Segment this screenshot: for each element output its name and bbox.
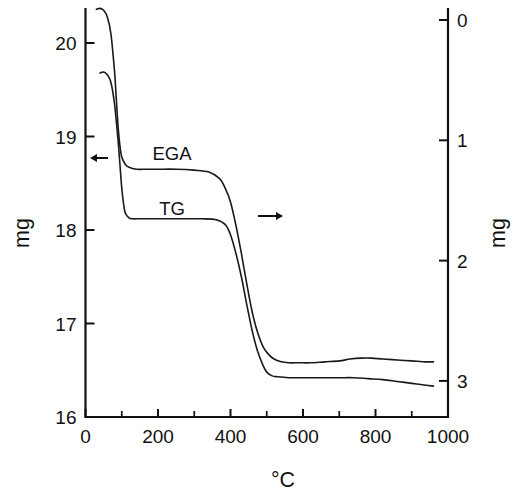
y-left-tick-label: 19	[55, 127, 76, 148]
y-left-tick-label: 20	[55, 33, 76, 54]
y-right-tick-label: 2	[457, 251, 468, 272]
tga-ega-chart: 0200400600800100016171819200123EGATGmgmg…	[0, 0, 530, 502]
y-left-axis-title: mg	[10, 218, 34, 248]
axis-frame	[86, 8, 449, 417]
curve-ega	[96, 8, 433, 362]
x-tick-label: 800	[360, 426, 392, 447]
y-left-tick-label: 18	[55, 220, 76, 241]
y-right-tick-label: 3	[457, 371, 468, 392]
y-right-tick-label: 1	[457, 130, 468, 151]
y-right-tick-label: 0	[457, 10, 468, 31]
x-tick-label: 200	[142, 426, 174, 447]
curve-label-tg: TG	[159, 198, 185, 219]
x-tick-label: 600	[287, 426, 319, 447]
x-tick-label: 1000	[427, 426, 469, 447]
curve-tg	[100, 72, 434, 386]
curve-label-ega: EGA	[152, 143, 192, 164]
x-axis-title: °C	[271, 468, 295, 492]
figure-container: 0200400600800100016171819200123EGATGmgmg…	[0, 0, 530, 502]
x-tick-label: 400	[215, 426, 247, 447]
y-right-axis-title: mg	[486, 218, 510, 248]
y-left-tick-label: 16	[55, 407, 76, 428]
right-axis-arrow-icon-head	[276, 212, 283, 220]
y-left-tick-label: 17	[55, 314, 76, 335]
left-axis-arrow-icon-head	[90, 154, 97, 162]
x-tick-label: 0	[80, 426, 91, 447]
